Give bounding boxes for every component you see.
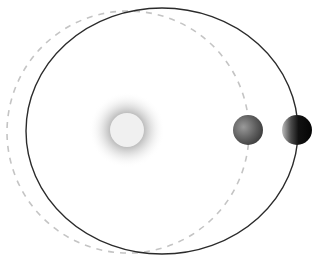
planet-elliptical-orbit-icon	[282, 115, 312, 145]
orbit-diagram	[0, 0, 320, 267]
star-icon	[110, 113, 144, 147]
orbit-diagram-canvas	[0, 0, 320, 267]
planet-circular-orbit-icon	[233, 115, 263, 145]
